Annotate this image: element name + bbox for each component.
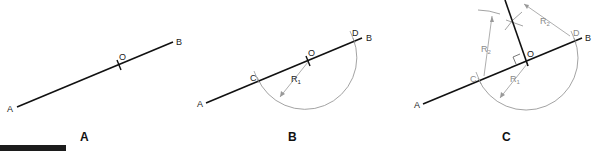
perpendicular-construction-diagram: A B O A A B O C D R1 B A bbox=[0, 0, 592, 151]
label-b: B bbox=[366, 33, 372, 43]
label-o: O bbox=[308, 48, 315, 58]
panel-b: A B O C D R1 B bbox=[197, 28, 372, 144]
label-r2-left: R2 bbox=[481, 44, 492, 55]
label-r1: R1 bbox=[510, 74, 521, 85]
label-a: A bbox=[7, 104, 13, 114]
label-c: C bbox=[470, 74, 477, 84]
label-b: B bbox=[176, 37, 182, 47]
label-a: A bbox=[414, 100, 420, 110]
label-r2-right: R2 bbox=[540, 16, 551, 27]
label-b: B bbox=[585, 33, 591, 43]
radius-r2-left-arrow bbox=[490, 16, 494, 22]
radius-r2-right-arrow bbox=[524, 4, 529, 9]
label-o: O bbox=[119, 52, 126, 62]
panel-title-b: B bbox=[288, 130, 297, 144]
panel-title-c: C bbox=[502, 130, 511, 144]
label-d: D bbox=[573, 28, 580, 38]
perpendicular-line bbox=[505, 0, 528, 66]
right-angle-mark bbox=[513, 54, 520, 64]
cropped-edge-bar bbox=[0, 145, 66, 151]
label-c: C bbox=[250, 73, 257, 83]
label-a: A bbox=[197, 99, 203, 109]
panel-title-a: A bbox=[80, 130, 89, 144]
radius-r2-right-line bbox=[524, 4, 570, 36]
label-r1: R1 bbox=[291, 74, 302, 85]
panel-a: A B O A bbox=[7, 37, 182, 144]
label-o: O bbox=[527, 49, 534, 59]
arc-r2-from-c bbox=[478, 10, 500, 14]
panel-c: A B O C D R1 R2 R2 C bbox=[414, 0, 591, 144]
label-d: D bbox=[352, 28, 359, 38]
line-ab bbox=[17, 42, 173, 107]
arc-r1 bbox=[257, 38, 357, 109]
